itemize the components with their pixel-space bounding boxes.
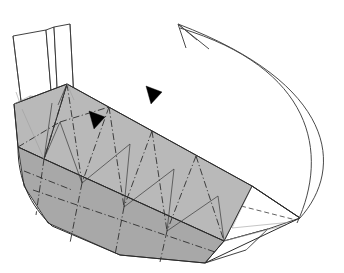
origami-diagram: Origami folding step diagram Isometric v… — [0, 0, 344, 273]
figure-root: Origami folding step diagram Isometric v… — [0, 0, 344, 273]
